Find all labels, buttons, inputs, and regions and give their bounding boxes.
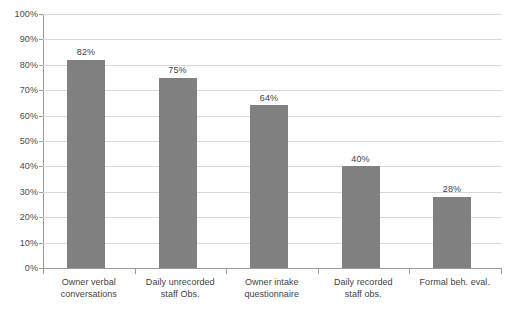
- y-axis-labels: 100% 90% 80% 70% 60% 50% 40% 30% 20% 10%…: [0, 0, 38, 315]
- bar-value-label: 40%: [322, 155, 400, 164]
- x-axis-tick: [43, 269, 44, 274]
- y-axis-label: 10%: [0, 239, 38, 248]
- bar-owner-intake-questionnaire[interactable]: [250, 105, 288, 268]
- bar-value-label: 28%: [413, 185, 491, 194]
- x-axis-label-line1: Formal beh. eval.: [420, 277, 490, 287]
- y-axis-label: 100%: [0, 10, 38, 19]
- bar-value-label: 82%: [47, 48, 125, 57]
- x-axis-label-formal-beh-eval: Formal beh. eval.: [409, 277, 501, 289]
- x-axis-label-line2: questionnaire: [226, 289, 318, 301]
- x-axis-label-owner-verbal-conversations: Owner verbal conversations: [43, 277, 135, 300]
- x-axis-label-daily-recorded-staff-obs: Daily recorded staff obs.: [318, 277, 410, 300]
- gridline: [43, 14, 502, 15]
- x-axis-label-owner-intake-questionnaire: Owner intake questionnaire: [226, 277, 318, 300]
- y-axis-label: 90%: [0, 35, 38, 44]
- x-axis-tick: [226, 269, 227, 274]
- x-axis-tick: [318, 269, 319, 274]
- y-axis-label: 40%: [0, 162, 38, 171]
- gridline: [43, 39, 502, 40]
- x-axis-label-line2: conversations: [43, 289, 135, 301]
- y-axis-label: 70%: [0, 86, 38, 95]
- x-axis-line: [43, 268, 502, 269]
- x-axis-label-line1: Daily unrecorded: [146, 277, 215, 287]
- y-axis-label: 20%: [0, 213, 38, 222]
- gridline: [43, 90, 502, 91]
- x-axis-label-line1: Owner intake: [245, 277, 299, 287]
- y-axis-label: 0%: [0, 264, 38, 273]
- bar-daily-recorded-staff-obs[interactable]: [342, 166, 380, 268]
- x-axis-label-line1: Daily recorded: [334, 277, 393, 287]
- bar-value-label: 75%: [139, 66, 217, 75]
- x-axis-tick: [409, 269, 410, 274]
- bar-formal-beh-eval[interactable]: [433, 197, 471, 268]
- x-axis-label-daily-unrecorded-staff-obs: Daily unrecorded staff Obs.: [135, 277, 227, 300]
- x-axis-tick: [501, 269, 502, 274]
- x-axis-tick: [135, 269, 136, 274]
- bar-owner-verbal-conversations[interactable]: [67, 60, 105, 268]
- x-axis-label-line1: Owner verbal: [62, 277, 116, 287]
- y-axis-label: 30%: [0, 188, 38, 197]
- bar-daily-unrecorded-staff-obs[interactable]: [159, 78, 197, 269]
- bar-value-label: 64%: [230, 94, 308, 103]
- x-axis-label-line2: staff obs.: [318, 289, 410, 301]
- y-axis-label: 80%: [0, 61, 38, 70]
- y-axis-label: 60%: [0, 112, 38, 121]
- y-axis-label: 50%: [0, 137, 38, 146]
- bar-chart: 100% 90% 80% 70% 60% 50% 40% 30% 20% 10%…: [0, 0, 508, 315]
- x-axis-label-line2: staff Obs.: [135, 289, 227, 301]
- gridline: [43, 65, 502, 66]
